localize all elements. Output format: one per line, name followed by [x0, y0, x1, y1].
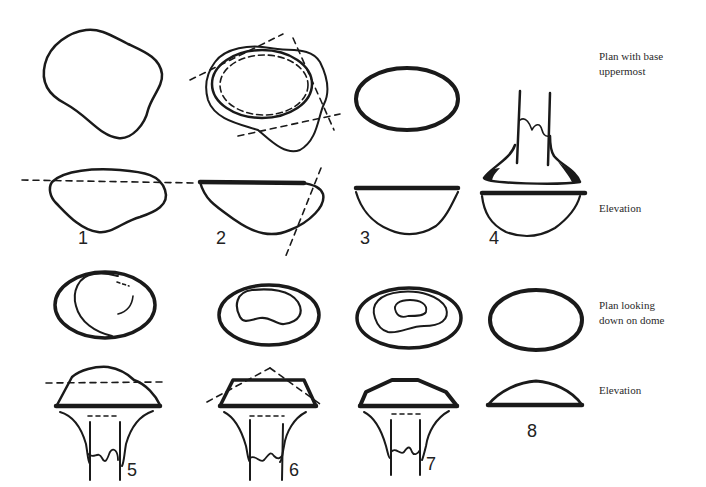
stage-2-cut-line-a: [190, 34, 283, 80]
stage-4-stem-left: [517, 91, 520, 163]
stage-3-elevation-outline: [356, 192, 458, 234]
stage-1-plan-outline: [44, 30, 162, 138]
stage-3-plan-oval: [356, 68, 458, 130]
stage-2-plan-outline-refined: [212, 50, 312, 118]
stage-7-number: 7: [426, 454, 436, 474]
row-label-elevation-bottom: Elevation: [599, 383, 641, 398]
stage-5-cut-line: [46, 382, 164, 383]
stage-7-plan-middle-contour: [374, 292, 447, 333]
row-label-plan-looking-down: Plan looking down on dome: [599, 298, 664, 328]
stage-7-stem-break: [391, 448, 420, 455]
stage-6-plan-inner-kidney: [237, 289, 301, 324]
stage-7-plan-inner-contour: [395, 300, 426, 317]
stage-6-flare-left: [224, 412, 250, 462]
stage-5-plan-inner-outline: [75, 273, 118, 336]
stage-1-number: 1: [78, 228, 88, 248]
stage-7-flare-right: [422, 411, 449, 460]
stage-3-number: 3: [360, 228, 370, 248]
stage-7-flare-left: [364, 412, 390, 458]
stage-1: 1: [22, 30, 195, 248]
row-label-plan-base-line1: Plan with base: [599, 49, 663, 64]
stage-5: 5: [46, 272, 164, 480]
row-label-plan-dome-line2: down on dome: [599, 313, 664, 328]
stage-5-dome-outline: [57, 367, 160, 405]
stage-8-plan-oval: [490, 290, 582, 350]
stage-4-flare-outline: [484, 136, 580, 184]
stage-8: 8: [488, 290, 582, 441]
stage-2-elevation-base: [200, 182, 304, 183]
stage-5-flare-right: [122, 411, 153, 466]
stage-4-stem-right: [548, 93, 550, 165]
stage-2-plan-target-oval: [220, 55, 308, 115]
stage-5-plan-highlight-dash: [117, 282, 129, 286]
stage-6-plan-outer-oval: [219, 285, 319, 345]
stage-5-flare-left: [60, 412, 90, 464]
stage-7: 7: [357, 288, 461, 475]
stage-8-dome-outline: [488, 381, 582, 405]
row-label-plan-dome-line1: Plan looking: [599, 298, 664, 313]
stage-5-stem-break: [88, 450, 118, 461]
stage-6-cut-line-left: [207, 368, 270, 402]
stage-4-stem-break: [520, 119, 550, 136]
row-label-elevation-top: Elevation: [599, 201, 641, 216]
row-label-plan-base-uppermost: Plan with base uppermost: [599, 49, 663, 79]
stage-6-stem-break: [250, 453, 282, 461]
stage-8-number: 8: [527, 421, 537, 441]
stage-5-plan-outer-oval: [55, 272, 155, 338]
stage-7-dome-outline: [360, 380, 457, 406]
stage-4: 4: [482, 91, 585, 248]
stage-2: 2: [190, 34, 340, 258]
stage-6-number: 6: [289, 460, 299, 480]
stage-5-number: 5: [127, 460, 137, 480]
stage-6: 6: [207, 285, 320, 480]
stage-2-number: 2: [216, 228, 226, 248]
stage-4-number: 4: [489, 228, 499, 248]
stage-1-cut-line: [22, 180, 195, 183]
stage-5-plan-highlight-arc: [118, 296, 133, 314]
stage-3: 3: [356, 68, 458, 248]
stage-6-dome-outline: [220, 380, 316, 406]
stage-6-flare-right: [280, 412, 306, 462]
stage-6-stem-right: [282, 424, 283, 480]
row-label-plan-base-line2: uppermost: [599, 64, 663, 79]
stage-1-elevation-outline: [50, 169, 166, 232]
stage-2-elevation-outline: [200, 182, 323, 234]
